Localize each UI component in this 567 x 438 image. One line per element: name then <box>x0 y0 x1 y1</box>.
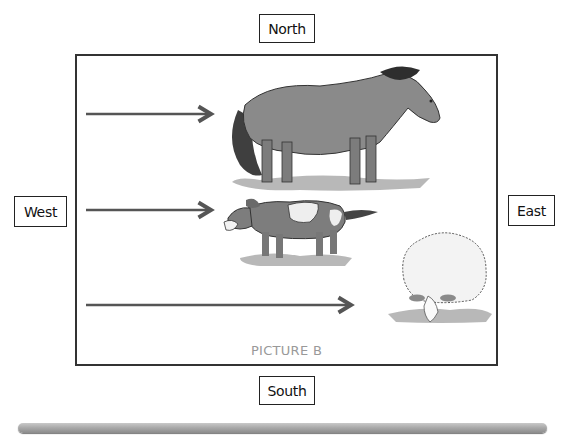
south-label: South <box>259 376 315 405</box>
divider-bar <box>18 423 547 433</box>
picture-illustration <box>0 0 567 438</box>
horse-icon <box>232 66 440 190</box>
sheep-icon <box>388 233 492 323</box>
dog-icon <box>224 199 378 266</box>
